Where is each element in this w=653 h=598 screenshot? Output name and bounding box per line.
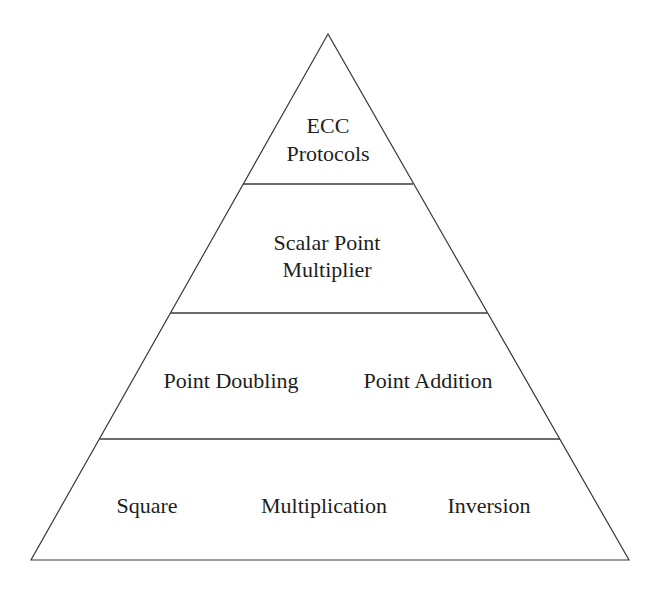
inversion-label: Inversion xyxy=(447,493,530,518)
tier-field-operations: Square Multiplication Inversion xyxy=(116,493,530,518)
tier-point-operations: Point Doubling Point Addition xyxy=(163,368,492,393)
multiplication-label: Multiplication xyxy=(261,493,387,518)
point-addition-label: Point Addition xyxy=(364,368,493,393)
tier-2-line-2: Multiplier xyxy=(282,257,372,282)
point-doubling-label: Point Doubling xyxy=(163,368,298,393)
tier-ecc-protocols: ECC Protocols xyxy=(286,113,369,166)
ecc-hierarchy-pyramid: ECC Protocols Scalar Point Multiplier Po… xyxy=(0,0,653,598)
tier-1-line-1: ECC xyxy=(307,113,350,138)
square-label: Square xyxy=(116,493,177,518)
tier-scalar-point-multiplier: Scalar Point Multiplier xyxy=(274,230,381,282)
tier-1-line-2: Protocols xyxy=(286,141,369,166)
tier-2-line-1: Scalar Point xyxy=(274,230,381,255)
